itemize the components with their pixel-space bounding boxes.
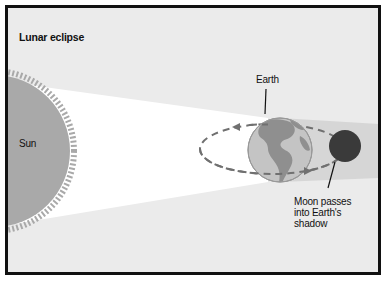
moon-caption: Moon passes into Earth's shadow xyxy=(294,196,364,229)
earth-label: Earth xyxy=(256,74,279,85)
sun-label: Sun xyxy=(19,138,36,149)
moon-icon xyxy=(329,130,361,162)
diagram-title: Lunar eclipse xyxy=(19,32,84,43)
